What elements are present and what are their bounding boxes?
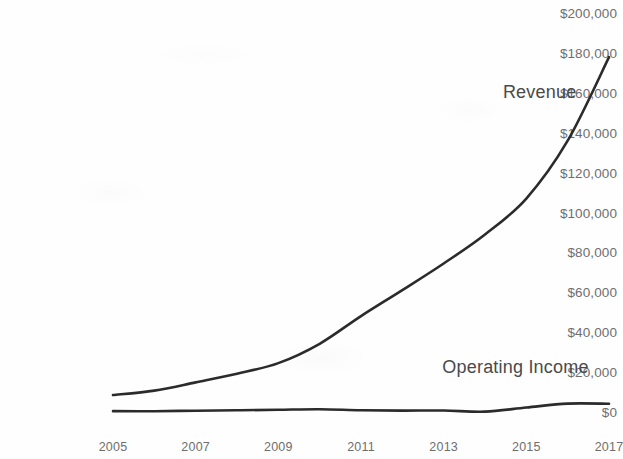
- x-axis-tick-label: 2007: [181, 440, 210, 454]
- x-axis-tick-label: 2015: [512, 440, 541, 454]
- x-axis-tick-label: 2009: [264, 440, 293, 454]
- x-axis-tick-label: 2005: [99, 440, 128, 454]
- revenue-line: [113, 57, 609, 395]
- x-axis-tick-label: 2013: [429, 440, 458, 454]
- operating-income-line: [113, 403, 609, 411]
- x-axis-tick-label: 2017: [595, 440, 623, 454]
- x-axis-tick-label: 2011: [347, 440, 375, 454]
- revenue-series-label: Revenue: [503, 82, 576, 103]
- operating-income-series-label: Operating Income: [442, 357, 588, 378]
